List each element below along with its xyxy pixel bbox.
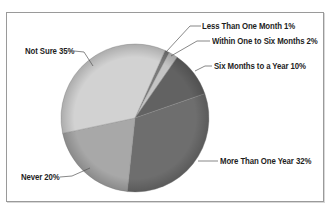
label-more-than-one-year: More Than One Year 32% bbox=[220, 156, 311, 166]
leader-within-one-to-six bbox=[171, 41, 210, 56]
pie-shading bbox=[61, 44, 209, 192]
label-less-than-one-month: Less Than One Month 1% bbox=[202, 21, 295, 31]
label-never: Never 20% bbox=[21, 172, 60, 182]
label-not-sure: Not Sure 35% bbox=[25, 46, 74, 56]
label-within-one-to-six-months: Within One to Six Months 2% bbox=[212, 36, 318, 46]
label-six-months-to-a-year: Six Months to a Year 10% bbox=[214, 61, 306, 71]
leader-less-than-one-month bbox=[166, 26, 201, 52]
leader-six-months-to-year bbox=[195, 66, 212, 71]
